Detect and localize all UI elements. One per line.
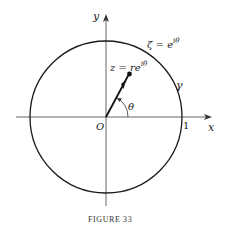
zeta-exponent: iθ [173, 37, 179, 45]
unit-tick-label: 1 [183, 121, 189, 131]
z-lhs: z = re [110, 62, 141, 73]
y-axis-label: y [93, 11, 99, 22]
x-axis-label: x [208, 122, 214, 133]
figure-caption: FIGURE 33 [88, 216, 132, 224]
origin-label: O [96, 122, 104, 132]
theta-label: θ [128, 102, 134, 112]
z-equation: z = reiθ [110, 61, 147, 73]
gamma-label: γ [176, 80, 183, 91]
z-exponent: iθ [141, 60, 147, 68]
zeta-lhs: ζ = e [147, 39, 173, 50]
theta-arc [117, 98, 128, 117]
zeta-equation: ζ = eiθ [147, 38, 180, 50]
unit-circle-diagram [0, 0, 225, 233]
